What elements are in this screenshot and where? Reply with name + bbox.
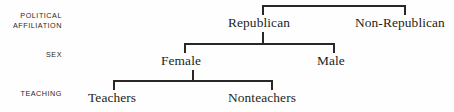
- connector-root-horizontal: [262, 5, 406, 7]
- connector-teaching-to-teachers: [113, 80, 115, 90]
- connector-root-to-republican: [262, 5, 264, 15]
- node-female: Female: [161, 54, 201, 68]
- connector-female-stem: [192, 70, 194, 80]
- node-nonteachers: Nonteachers: [228, 91, 296, 105]
- node-republican: Republican: [228, 16, 290, 30]
- connector-teaching-to-nonteachers: [271, 80, 273, 90]
- connector-sex-to-male: [333, 43, 335, 53]
- connector-republican-stem: [262, 32, 264, 43]
- connector-sex-to-female: [184, 43, 186, 53]
- connector-root-to-non-republican: [404, 5, 406, 15]
- row-label-teaching: TEACHING: [20, 89, 62, 99]
- connector-teaching-horizontal: [113, 80, 273, 82]
- connector-sex-horizontal: [184, 43, 335, 45]
- row-label-political-affiliation: POLITICAL AFFILIATION: [13, 11, 62, 30]
- tree-diagram: POLITICAL AFFILIATION SEX TEACHING Repub…: [0, 0, 454, 112]
- node-male: Male: [317, 54, 345, 68]
- node-non-republican: Non-Republican: [355, 16, 445, 30]
- row-label-sex: SEX: [46, 50, 62, 60]
- node-teachers: Teachers: [88, 91, 136, 105]
